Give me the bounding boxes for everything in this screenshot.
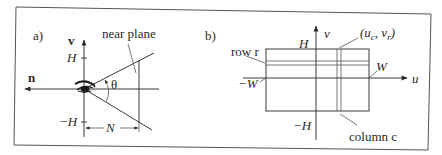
panel-a: a) n v H −H near plane θ <box>25 26 159 137</box>
u-axis-label: u <box>412 71 419 86</box>
h-label-b: H <box>298 36 309 51</box>
row-label: row r <box>231 44 259 59</box>
neg-w-leader <box>260 78 266 82</box>
n-distance-label: N <box>105 120 116 135</box>
w-label: W <box>376 59 388 74</box>
panel-b-label: b) <box>205 28 216 43</box>
point-leader <box>339 38 358 48</box>
figure-canvas: a) n v H −H near plane θ <box>0 0 442 155</box>
v-axis-label-b: v <box>324 26 330 41</box>
point-label: (uc, vr) <box>360 25 395 42</box>
neg-w-label: −W <box>238 76 259 91</box>
frustum-top-ray <box>86 53 154 88</box>
neg-h-tick-label: −H <box>59 114 78 129</box>
neg-h-label-b: −H <box>293 118 312 133</box>
eye-icon <box>75 81 95 92</box>
image-window <box>266 49 369 111</box>
near-plane-label: near plane <box>102 26 156 41</box>
column-leader <box>340 114 357 125</box>
theta-label: θ <box>111 77 117 92</box>
v-axis-label: v <box>68 33 75 48</box>
viewing-geometry-figure: a) n v H −H near plane θ <box>0 0 442 155</box>
panel-b: b) u v H −H −W W row r (uc, vr) column c <box>205 25 419 144</box>
h-tick-label: H <box>66 50 77 65</box>
near-plane-leader <box>128 44 136 73</box>
column-label: column c <box>349 129 397 144</box>
panel-a-label: a) <box>33 28 43 43</box>
theta-arc <box>105 80 108 102</box>
n-axis-label: n <box>28 70 36 85</box>
